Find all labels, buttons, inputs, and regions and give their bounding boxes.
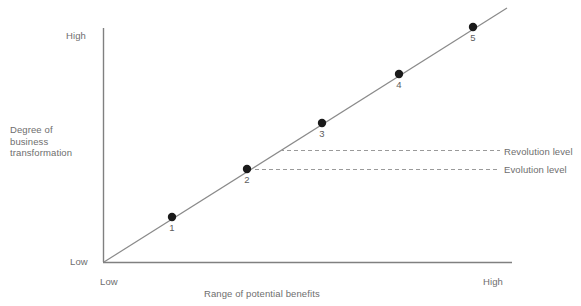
x-axis-tick-low: Low [100,276,118,288]
revolution-level-label: Revolution level [504,146,573,158]
x-axis-tick-high: High [483,276,503,288]
y-axis-tick-low: Low [70,256,88,268]
y-axis-title: Degree of business transformation [10,124,98,159]
data-point-2 [243,165,251,173]
data-point-label-2: 2 [240,174,254,185]
data-point-label-5: 5 [466,32,480,43]
x-axis-title: Range of potential benefits [204,288,320,300]
chart-figure: Degree of business transformation High L… [0,0,581,306]
data-point-1 [168,213,176,221]
data-point-label-3: 3 [315,128,329,139]
data-point-4 [395,70,403,78]
data-point-label-4: 4 [392,79,406,90]
data-point-5 [469,23,477,31]
data-point-3 [318,119,326,127]
data-point-label-1: 1 [165,222,179,233]
y-axis-tick-high: High [66,30,86,42]
evolution-level-label: Evolution level [504,164,567,176]
